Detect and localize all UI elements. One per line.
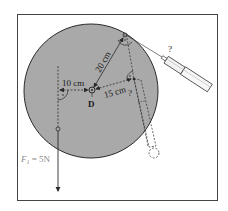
right-angle-dot-15 [129, 75, 131, 77]
pivot-label: D [88, 99, 95, 109]
unknown-force-marker-2: ? [128, 88, 132, 98]
right-angle-dot-top [124, 39, 126, 41]
f1-value: = 5N [30, 154, 51, 164]
dim-10-label: 10 cm [62, 78, 84, 88]
right-angle-dot-f1 [62, 94, 64, 96]
lever-diagram: 10 cm D 20 cm ? 15 cm ? F1 = 5N [0, 0, 228, 211]
pivot-inner [91, 89, 93, 91]
f1-application-point [56, 127, 60, 131]
unknown-force-marker-1: ? [168, 44, 172, 54]
f1-label: F1 = 5N [20, 154, 51, 165]
